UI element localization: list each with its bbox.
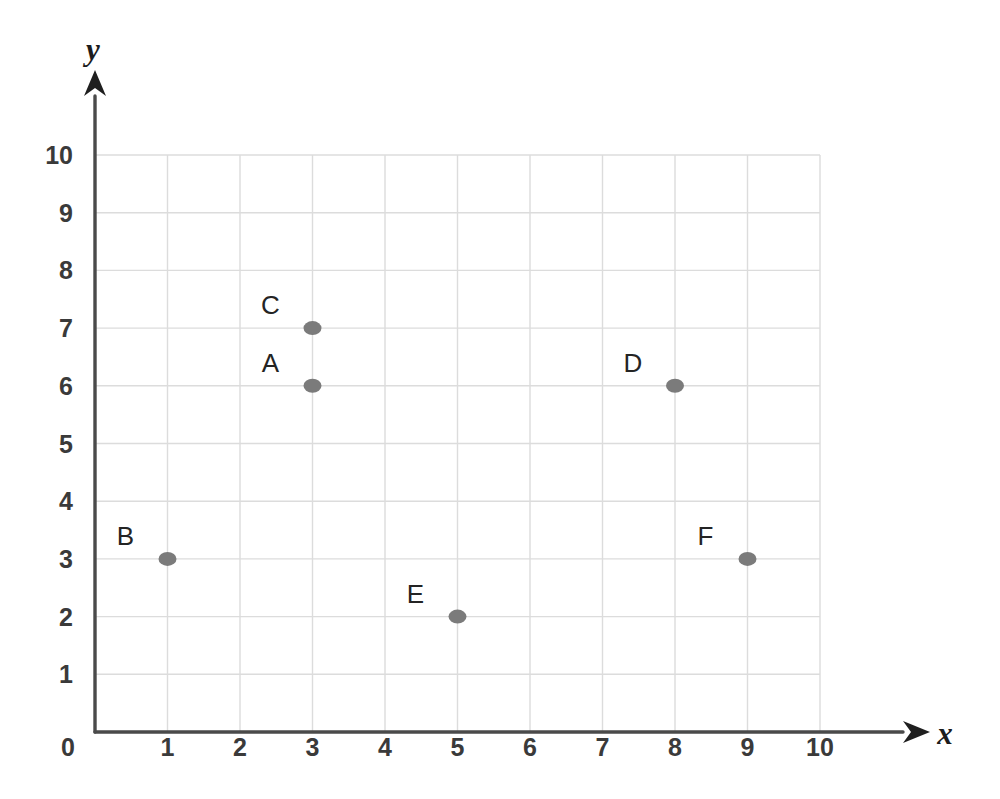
x-tick-label: 7 [596, 733, 610, 761]
y-tick-label: 3 [59, 545, 73, 573]
y-tick-label: 8 [59, 256, 73, 284]
y-axis-arrowhead [84, 70, 106, 96]
point-marker[interactable] [304, 321, 322, 335]
point-label: E [407, 579, 424, 609]
x-tick-label: 4 [378, 733, 392, 761]
x-tick-label: 8 [668, 733, 682, 761]
point-marker[interactable] [304, 379, 322, 393]
point-marker[interactable] [449, 610, 467, 624]
x-tick-label: 9 [741, 733, 755, 761]
x-axis-arrowhead [903, 721, 930, 743]
axis-lines [84, 70, 930, 743]
x-tick-label: 3 [306, 733, 320, 761]
y-tick-label: 2 [59, 603, 73, 631]
point-label: F [698, 521, 714, 551]
axis-name-group: xy [82, 32, 953, 751]
x-axis-tick-labels: 012345678910 [61, 733, 834, 761]
plot-canvas: 012345678910 12345678910 ABCDEF xy [0, 0, 1000, 799]
point-marker[interactable] [159, 552, 177, 566]
y-tick-label: 9 [59, 199, 73, 227]
point-label: D [624, 348, 643, 378]
x-axis-name: x [936, 716, 953, 751]
y-tick-label: 7 [59, 314, 73, 342]
x-tick-label: 2 [233, 733, 247, 761]
point-label: A [262, 348, 280, 378]
y-tick-label: 4 [59, 487, 73, 515]
y-axis-name: y [82, 32, 100, 67]
y-tick-label: 10 [45, 141, 73, 169]
data-point-group: ABCDEF [117, 290, 757, 623]
grid-lines [95, 155, 820, 732]
y-axis-tick-labels: 12345678910 [45, 141, 73, 688]
x-tick-label: 6 [523, 733, 537, 761]
point-marker[interactable] [666, 379, 684, 393]
x-tick-label: 5 [451, 733, 465, 761]
y-tick-label: 5 [59, 430, 73, 458]
y-tick-label: 1 [59, 660, 73, 688]
y-tick-label: 6 [59, 372, 73, 400]
scatter-plot-figure: 012345678910 12345678910 ABCDEF xy [0, 0, 1000, 799]
point-marker[interactable] [739, 552, 757, 566]
point-label: C [261, 290, 280, 320]
x-tick-label: 1 [161, 733, 175, 761]
x-tick-label: 10 [806, 733, 834, 761]
origin-tick-label: 0 [61, 733, 75, 761]
point-label: B [117, 521, 134, 551]
